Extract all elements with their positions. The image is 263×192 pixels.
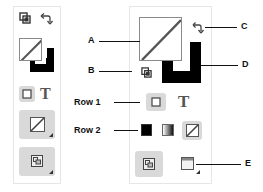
fill-box-large[interactable] bbox=[139, 17, 182, 61]
formatting-affects-container-icon bbox=[151, 97, 161, 107]
callout-leader-d bbox=[201, 65, 238, 66]
callout-leader-row2 bbox=[114, 130, 138, 131]
formatting-affects-text-icon[interactable]: T bbox=[40, 85, 51, 103]
formatting-affects-container-button-right[interactable] bbox=[146, 93, 166, 111]
screen-mode-normal-icon bbox=[143, 158, 155, 170]
formatting-affects-container-button[interactable] bbox=[19, 86, 35, 102]
callout-label-c: C bbox=[241, 21, 248, 31]
formatting-affects-text-icon-right[interactable]: T bbox=[178, 92, 189, 112]
none-slash-icon bbox=[20, 39, 42, 61]
view-mode-icon bbox=[181, 157, 194, 170]
formatting-affects-container-icon bbox=[22, 89, 32, 99]
screen-mode-normal-icon bbox=[31, 155, 43, 167]
apply-none-icon bbox=[30, 117, 45, 132]
callout-leader-e bbox=[196, 164, 241, 165]
screen-mode-button[interactable] bbox=[19, 147, 55, 176]
screen-mode-button-right[interactable] bbox=[135, 151, 163, 177]
none-slash-icon bbox=[140, 18, 182, 61]
callout-label-a: A bbox=[88, 35, 95, 45]
callout-leader-c bbox=[205, 27, 237, 28]
callout-leader-a bbox=[99, 41, 140, 42]
apply-none-icon bbox=[186, 124, 199, 137]
apply-none-button-right[interactable] bbox=[182, 121, 202, 140]
callout-label-d: D bbox=[242, 59, 249, 69]
view-mode-button[interactable] bbox=[179, 154, 203, 176]
default-fill-stroke-icon[interactable] bbox=[19, 12, 31, 24]
callout-leader-b bbox=[99, 71, 132, 72]
apply-none-button[interactable] bbox=[19, 110, 55, 139]
flyout-corner-icon bbox=[49, 133, 53, 137]
callout-label-row1: Row 1 bbox=[74, 97, 101, 107]
callout-label-row2: Row 2 bbox=[74, 125, 101, 135]
callout-label-b: B bbox=[88, 65, 95, 75]
flyout-corner-icon bbox=[196, 170, 200, 174]
swap-fill-stroke-icon[interactable] bbox=[40, 12, 53, 25]
fill-box[interactable] bbox=[19, 38, 42, 61]
default-fill-stroke-icon-right[interactable] bbox=[141, 67, 152, 78]
apply-gradient-icon[interactable] bbox=[162, 124, 174, 136]
callout-label-e: E bbox=[245, 158, 251, 168]
callout-leader-row1 bbox=[114, 102, 140, 103]
flyout-corner-icon bbox=[49, 170, 53, 174]
swap-fill-stroke-icon-right[interactable] bbox=[192, 21, 204, 34]
apply-color-icon[interactable] bbox=[141, 124, 152, 136]
